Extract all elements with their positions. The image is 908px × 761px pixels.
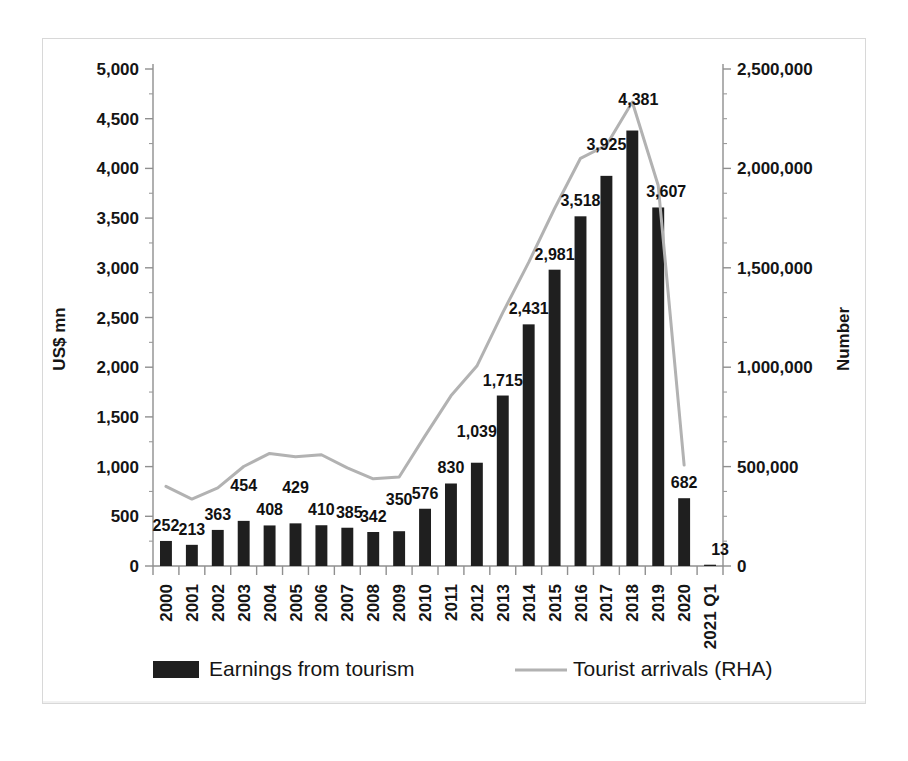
right-axis-tick-label: 0 bbox=[737, 557, 746, 576]
bar bbox=[652, 207, 664, 566]
bar-value-label: 1,039 bbox=[457, 423, 497, 440]
bar-value-label: 2,981 bbox=[535, 246, 575, 263]
category-label: 2002 bbox=[209, 584, 228, 622]
category-label: 2015 bbox=[546, 584, 565, 622]
category-label: 2013 bbox=[494, 584, 513, 622]
legend-item-arrivals: Tourist arrivals (RHA) bbox=[573, 657, 773, 680]
chart-legend: Earnings from tourism Tourist arrivals (… bbox=[153, 657, 773, 680]
bar-value-label: 3,925 bbox=[586, 136, 626, 153]
bar bbox=[626, 131, 638, 566]
category-label: 2003 bbox=[235, 584, 254, 622]
bar-value-label: 408 bbox=[256, 501, 283, 518]
bar bbox=[341, 528, 353, 566]
bar-value-label: 576 bbox=[412, 485, 439, 502]
bar-value-label: 830 bbox=[438, 459, 465, 476]
category-label: 2004 bbox=[261, 583, 280, 621]
left-axis-tick-label: 1,500 bbox=[96, 408, 139, 427]
bar-value-label: 3,607 bbox=[646, 183, 686, 200]
bar bbox=[212, 530, 224, 566]
bar bbox=[471, 463, 483, 566]
category-label: 2000 bbox=[157, 584, 176, 622]
bar-value-label: 3,518 bbox=[560, 192, 600, 209]
category-label: 2007 bbox=[338, 584, 357, 622]
category-label: 2016 bbox=[572, 584, 591, 622]
bar bbox=[678, 498, 690, 566]
category-labels: 2000200120022003200420052006200720082009… bbox=[157, 583, 720, 649]
x-axis bbox=[153, 566, 723, 575]
category-label: 2011 bbox=[442, 584, 461, 621]
right-axis-tick-label: 2,500,000 bbox=[737, 60, 813, 79]
right-axis-tick-label: 1,000,000 bbox=[737, 358, 813, 377]
left-axis-tick-label: 4,000 bbox=[96, 159, 139, 178]
category-label: 2021 Q1 bbox=[701, 584, 720, 649]
right-axis-tick-label: 500,000 bbox=[737, 458, 798, 477]
chart-frame: 05001,0001,5002,0002,5003,0003,5004,0004… bbox=[42, 38, 866, 704]
bar-value-label: 213 bbox=[179, 521, 206, 538]
bar bbox=[315, 525, 327, 566]
bar bbox=[445, 483, 457, 566]
category-label: 2019 bbox=[649, 584, 668, 622]
left-axis-tick-label: 3,500 bbox=[96, 209, 139, 228]
category-label: 2020 bbox=[675, 584, 694, 622]
bar bbox=[367, 532, 379, 566]
bar bbox=[497, 396, 509, 566]
right-axis-title: Number bbox=[834, 307, 853, 372]
bar bbox=[704, 565, 716, 566]
bar bbox=[160, 541, 172, 566]
category-label: 2006 bbox=[312, 584, 331, 622]
bar bbox=[600, 176, 612, 566]
bar-value-label: 429 bbox=[282, 479, 309, 496]
left-axis-tick-label: 500 bbox=[111, 507, 139, 526]
bar-value-label: 4,381 bbox=[618, 91, 658, 108]
bar bbox=[186, 545, 198, 566]
category-label: 2017 bbox=[597, 584, 616, 622]
left-axis-tick-label: 2,000 bbox=[96, 358, 139, 377]
bar bbox=[290, 523, 302, 566]
category-label: 2018 bbox=[623, 584, 642, 622]
bar bbox=[575, 216, 587, 566]
right-axis-tick-label: 1,500,000 bbox=[737, 259, 813, 278]
bar-value-label: 682 bbox=[671, 474, 698, 491]
bar bbox=[393, 531, 405, 566]
left-axis-tick-label: 4,500 bbox=[96, 110, 139, 129]
bar bbox=[264, 525, 276, 566]
category-label: 2012 bbox=[468, 584, 487, 622]
right-axis-tick-label: 2,000,000 bbox=[737, 159, 813, 178]
left-axis-title: US$ mn bbox=[50, 307, 69, 370]
left-axis-tick-label: 2,500 bbox=[96, 309, 139, 328]
bar-value-label: 385 bbox=[336, 504, 363, 521]
bar bbox=[238, 521, 250, 566]
legend-bar-swatch bbox=[153, 661, 199, 678]
bar bbox=[419, 509, 431, 566]
bar-value-label: 363 bbox=[204, 506, 231, 523]
bar bbox=[549, 270, 561, 566]
bar-value-label: 342 bbox=[360, 508, 387, 525]
bar-value-label: 2,431 bbox=[509, 300, 549, 317]
bar-value-label: 1,715 bbox=[483, 372, 523, 389]
left-axis-tick-label: 1,000 bbox=[96, 458, 139, 477]
bar-value-label: 410 bbox=[308, 501, 335, 518]
category-label: 2005 bbox=[287, 584, 306, 622]
category-label: 2009 bbox=[390, 584, 409, 622]
bar-value-label: 13 bbox=[711, 541, 729, 558]
left-axis: 05001,0001,5002,0002,5003,0003,5004,0004… bbox=[96, 60, 153, 576]
category-label: 2001 bbox=[183, 584, 202, 622]
bar-value-label: 454 bbox=[230, 477, 257, 494]
left-axis-tick-label: 5,000 bbox=[96, 60, 139, 79]
category-label: 2008 bbox=[364, 584, 383, 622]
tourism-chart: 05001,0001,5002,0002,5003,0003,5004,0004… bbox=[43, 39, 865, 703]
left-axis-tick-label: 0 bbox=[130, 557, 139, 576]
bar-value-label: 350 bbox=[386, 491, 413, 508]
category-label: 2010 bbox=[416, 584, 435, 622]
bar-value-labels: 2522133634544084294103853423505768301,03… bbox=[153, 91, 729, 558]
category-label: 2014 bbox=[520, 583, 539, 621]
left-axis-tick-label: 3,000 bbox=[96, 259, 139, 278]
right-axis: 0500,0001,000,0001,500,0002,000,0002,500… bbox=[723, 60, 813, 576]
bar bbox=[523, 324, 535, 566]
legend-item-earnings: Earnings from tourism bbox=[209, 657, 414, 680]
bar-value-label: 252 bbox=[153, 517, 180, 534]
